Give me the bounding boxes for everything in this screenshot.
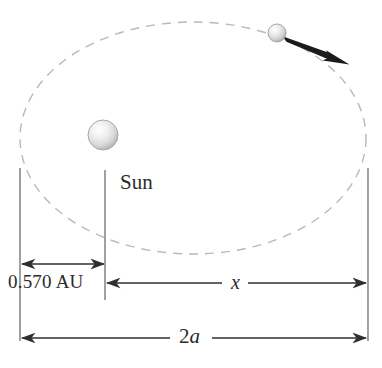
perihelion-distance-label: 0.570 AU [8,272,84,291]
velocity-vector-shaft [283,36,334,61]
major-axis-prefix: 2 [179,324,190,348]
major-axis-label: 2a [173,326,206,347]
x-distance-label: x [225,272,246,292]
orbit-diagram-canvas [0,0,382,368]
major-axis-symbol: a [190,324,201,348]
planet-sphere [268,24,286,42]
sun-label: Sun [120,172,153,193]
orbit-diagram-figure: Sun 0.570 AU x 2a [0,0,382,368]
sun-sphere [88,120,118,150]
orbit-ellipse [20,22,366,254]
